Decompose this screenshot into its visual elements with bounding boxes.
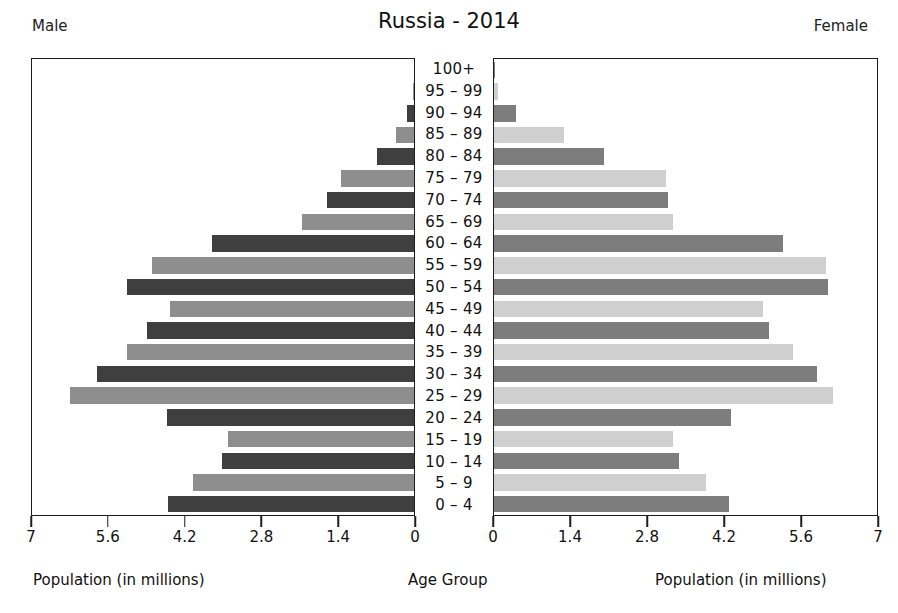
female-x-tick-label: 4.2 bbox=[712, 528, 736, 546]
female-bar-7579 bbox=[494, 170, 666, 187]
male-bar-3539 bbox=[127, 344, 414, 361]
population-pyramid-figure: Male Russia - 2014 Female 100+95 – 9990 … bbox=[0, 0, 898, 613]
bar-row bbox=[494, 493, 877, 515]
bar-row bbox=[494, 254, 877, 276]
age-group-label: 70 – 74 bbox=[416, 189, 492, 211]
male-x-tick bbox=[184, 516, 186, 527]
bar-row bbox=[494, 59, 877, 81]
male-bar-6569 bbox=[302, 214, 414, 231]
male-bar-5559 bbox=[152, 257, 414, 274]
bar-row bbox=[494, 124, 877, 146]
bar-row bbox=[32, 124, 414, 146]
male-x-tick bbox=[414, 516, 416, 527]
bar-row bbox=[494, 276, 877, 298]
page-title: Russia - 2014 bbox=[0, 8, 898, 32]
bar-row bbox=[494, 320, 877, 342]
female-x-tick-label: 0 bbox=[488, 528, 498, 546]
age-group-label: 45 – 49 bbox=[416, 298, 492, 320]
female-x-tick bbox=[569, 516, 571, 527]
bar-row bbox=[32, 363, 414, 385]
female-x-axis: 01.42.84.25.67 bbox=[493, 516, 878, 546]
female-bar-5054 bbox=[494, 279, 828, 296]
bar-row bbox=[494, 472, 877, 494]
female-bar-2024 bbox=[494, 409, 731, 426]
male-axis-caption: Population (in millions) bbox=[33, 571, 205, 589]
bar-row bbox=[494, 298, 877, 320]
age-group-label: 0 – 4 bbox=[416, 494, 492, 516]
female-x-tick-label: 5.6 bbox=[789, 528, 813, 546]
bar-row bbox=[494, 102, 877, 124]
bar-row bbox=[32, 450, 414, 472]
bar-row bbox=[32, 59, 414, 81]
female-bar-6064 bbox=[494, 235, 783, 252]
female-x-tick-label: 1.4 bbox=[558, 528, 582, 546]
female-bar-5559 bbox=[494, 257, 826, 274]
male-bar-59 bbox=[193, 474, 414, 491]
male-x-tick-label: 7 bbox=[26, 528, 36, 546]
bar-row bbox=[494, 81, 877, 103]
female-bar-9094 bbox=[494, 105, 516, 122]
male-x-tick-label: 0 bbox=[410, 528, 420, 546]
bar-row bbox=[32, 320, 414, 342]
male-x-tick bbox=[107, 516, 109, 527]
bar-row bbox=[32, 493, 414, 515]
age-group-axis: 100+95 – 9990 – 9485 – 8980 – 8475 – 797… bbox=[416, 58, 492, 516]
age-axis-caption: Age Group bbox=[408, 571, 484, 589]
female-bar-9599 bbox=[494, 83, 498, 100]
bar-row bbox=[32, 254, 414, 276]
female-bar-7074 bbox=[494, 192, 668, 209]
bar-row bbox=[32, 81, 414, 103]
age-group-label: 75 – 79 bbox=[416, 167, 492, 189]
bar-row bbox=[494, 407, 877, 429]
male-bar-9599 bbox=[413, 83, 414, 100]
male-x-tick bbox=[30, 516, 32, 527]
bar-row bbox=[32, 298, 414, 320]
age-group-label: 55 – 59 bbox=[416, 254, 492, 276]
female-x-tick bbox=[877, 516, 879, 527]
male-x-tick-label: 5.6 bbox=[96, 528, 120, 546]
bar-row bbox=[32, 385, 414, 407]
bar-row bbox=[494, 189, 877, 211]
bar-row bbox=[494, 168, 877, 190]
bar-row bbox=[494, 363, 877, 385]
age-group-label: 30 – 34 bbox=[416, 363, 492, 385]
age-group-label: 90 – 94 bbox=[416, 102, 492, 124]
female-x-tick-label: 2.8 bbox=[635, 528, 659, 546]
age-group-label: 15 – 19 bbox=[416, 429, 492, 451]
female-axis-caption: Population (in millions) bbox=[655, 571, 827, 589]
female-bar-04 bbox=[494, 496, 729, 513]
bar-row bbox=[32, 146, 414, 168]
bar-row bbox=[494, 341, 877, 363]
male-x-axis: 75.64.22.81.40 bbox=[31, 516, 415, 546]
male-bar-2024 bbox=[167, 409, 414, 426]
female-bar-100plus bbox=[494, 62, 495, 79]
age-group-label: 95 – 99 bbox=[416, 80, 492, 102]
age-group-label: 60 – 64 bbox=[416, 233, 492, 255]
male-x-tick-label: 4.2 bbox=[173, 528, 197, 546]
male-x-tick bbox=[261, 516, 263, 527]
bar-row bbox=[32, 233, 414, 255]
bar-row bbox=[32, 211, 414, 233]
female-bar-59 bbox=[494, 474, 706, 491]
male-bar-1519 bbox=[228, 431, 414, 448]
bar-row bbox=[494, 450, 877, 472]
male-bar-7074 bbox=[327, 192, 414, 209]
bar-row bbox=[32, 102, 414, 124]
age-group-label: 5 – 9 bbox=[416, 472, 492, 494]
male-bar-04 bbox=[168, 496, 414, 513]
female-x-tick bbox=[723, 516, 725, 527]
female-bar-group bbox=[494, 59, 877, 515]
female-bar-4044 bbox=[494, 322, 769, 339]
age-group-label: 20 – 24 bbox=[416, 407, 492, 429]
age-group-label: 50 – 54 bbox=[416, 276, 492, 298]
male-bar-5054 bbox=[127, 279, 414, 296]
age-group-label: 40 – 44 bbox=[416, 320, 492, 342]
female-x-tick bbox=[800, 516, 802, 527]
female-x-tick bbox=[492, 516, 494, 527]
male-bar-4044 bbox=[147, 322, 414, 339]
age-group-label: 25 – 29 bbox=[416, 385, 492, 407]
bar-row bbox=[494, 233, 877, 255]
male-bar-2529 bbox=[70, 387, 414, 404]
female-bar-8084 bbox=[494, 148, 604, 165]
female-bar-8589 bbox=[494, 127, 564, 144]
